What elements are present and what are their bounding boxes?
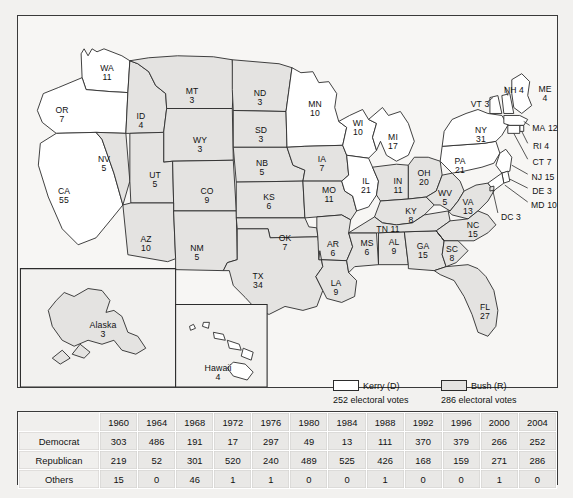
state-label-DC: DC 3 xyxy=(501,213,521,222)
table-row-democrat: Democrat 303 486 191 17 297 49 13 111 37… xyxy=(19,432,557,451)
state-label-IA: IA7 xyxy=(318,155,326,173)
legend-item-bush: Bush (R) 286 electoral votes xyxy=(441,376,517,405)
table-col-header: 1988 xyxy=(366,413,404,432)
state-label-CO: CO9 xyxy=(200,187,213,205)
table-col-header: 1984 xyxy=(328,413,366,432)
legend-label-bush: Bush (R) xyxy=(471,381,507,391)
state-label-TN: TN 11 xyxy=(376,225,399,234)
state-label-OR: OR7 xyxy=(55,106,68,124)
table-cell: 240 xyxy=(252,451,290,470)
table-cell: 46 xyxy=(176,470,214,489)
row-label-republican: Republican xyxy=(19,451,100,470)
table-cell: 525 xyxy=(328,451,366,470)
table-cell: 266 xyxy=(480,432,518,451)
state-label-OH: OH20 xyxy=(417,169,430,187)
table-cell: 0 xyxy=(138,470,176,489)
state-shape-TX xyxy=(223,229,322,315)
legend-votes-kerry: 252 electoral votes xyxy=(333,395,409,405)
state-label-MI: MI17 xyxy=(388,133,398,151)
table-cell: 370 xyxy=(404,432,442,451)
table-cell: 252 xyxy=(518,432,556,451)
state-label-NY: NY31 xyxy=(475,126,487,144)
table-col-header: 2004 xyxy=(518,413,556,432)
state-label-LA: LA9 xyxy=(331,279,342,297)
table-col-header: 1964 xyxy=(138,413,176,432)
state-label-GA: GA15 xyxy=(417,242,430,260)
table-cell: 301 xyxy=(176,451,214,470)
state-label-CT: CT 7 xyxy=(532,158,551,167)
state-label-IN: IN11 xyxy=(393,177,402,195)
table-cell: 486 xyxy=(138,432,176,451)
table-header-row: 1960 1964 1968 1972 1976 1980 1984 1988 … xyxy=(19,413,557,432)
table-col-header: 2000 xyxy=(480,413,518,432)
table-corner-cell xyxy=(19,413,100,432)
table-cell: 426 xyxy=(366,451,404,470)
table-col-header: 1972 xyxy=(214,413,252,432)
leader-line-DE xyxy=(510,179,528,188)
row-label-democrat: Democrat xyxy=(19,432,100,451)
table-col-header: 1976 xyxy=(252,413,290,432)
state-label-VT: VT 3 xyxy=(471,100,490,109)
state-label-ME: ME4 xyxy=(538,85,551,103)
table-row-others: Others 15 0 46 1 1 0 0 1 0 0 1 0 xyxy=(19,470,557,489)
table-col-header: 1980 xyxy=(290,413,328,432)
table-cell: 191 xyxy=(176,432,214,451)
state-shape-DC xyxy=(490,186,494,191)
table-row-republican: Republican 219 52 301 520 240 489 525 42… xyxy=(19,451,557,470)
state-shape-IN xyxy=(373,164,409,201)
table-cell: 1 xyxy=(252,470,290,489)
table-cell: 15 xyxy=(100,470,138,489)
state-shape-MA xyxy=(504,115,528,125)
leader-line-DC xyxy=(493,191,498,213)
table-col-header: 1992 xyxy=(404,413,442,432)
row-label-others: Others xyxy=(19,470,100,489)
table-cell: 489 xyxy=(290,451,328,470)
state-label-KS: KS6 xyxy=(263,193,275,211)
table-cell: 13 xyxy=(328,432,366,451)
table-cell: 297 xyxy=(252,432,290,451)
state-label-ND: ND3 xyxy=(254,89,267,107)
table-cell: 1 xyxy=(480,470,518,489)
table-cell: 271 xyxy=(480,451,518,470)
table-cell: 168 xyxy=(404,451,442,470)
electoral-map-frame: WA11 OR7 CA55 NV5 ID4 MT3 WY3 UT5 CO9 AZ… xyxy=(17,15,558,388)
table-cell: 286 xyxy=(518,451,556,470)
leader-line-NJ xyxy=(512,165,528,174)
state-label-KY: KY8 xyxy=(405,207,417,225)
table-cell: 219 xyxy=(100,451,138,470)
state-label-WA: WA11 xyxy=(100,64,114,82)
state-label-NV: NV5 xyxy=(98,155,110,173)
state-label-RI: RI 4 xyxy=(533,142,549,151)
state-label-alaska: Alaska3 xyxy=(89,321,116,339)
table-cell: 49 xyxy=(290,432,328,451)
state-shape-NM xyxy=(174,211,238,271)
table-col-header: 1996 xyxy=(442,413,480,432)
table-col-header: 1960 xyxy=(100,413,138,432)
table-cell: 520 xyxy=(214,451,252,470)
electoral-votes-table-wrap: 1960 1964 1968 1972 1976 1980 1984 1988 … xyxy=(17,411,558,485)
state-label-IL: IL21 xyxy=(361,177,371,195)
legend-swatch-kerry xyxy=(333,380,359,391)
table-cell: 0 xyxy=(290,470,328,489)
legend-swatch-bush xyxy=(441,380,467,391)
state-label-MN: MN10 xyxy=(308,100,322,118)
state-label-WI: WI10 xyxy=(353,119,364,137)
table-cell: 0 xyxy=(404,470,442,489)
table-cell: 17 xyxy=(214,432,252,451)
table-cell: 1 xyxy=(214,470,252,489)
legend-label-kerry: Kerry (D) xyxy=(363,381,400,391)
leader-line-CT xyxy=(514,133,528,159)
state-label-NH: NH 4 xyxy=(504,86,524,95)
state-label-MA: MA 12 xyxy=(532,124,557,133)
table-cell: 379 xyxy=(442,432,480,451)
state-label-AZ: AZ10 xyxy=(140,235,151,253)
state-label-CA: CA55 xyxy=(58,187,70,205)
state-shape-FL xyxy=(434,265,498,337)
state-label-NM: NM5 xyxy=(190,244,204,262)
state-label-WY: WY3 xyxy=(193,136,207,154)
table-cell: 303 xyxy=(100,432,138,451)
state-shape-RI xyxy=(520,125,524,131)
state-label-hawaii: Hawaii4 xyxy=(205,364,232,382)
table-cell: 111 xyxy=(366,432,404,451)
leader-line-RI xyxy=(522,131,528,143)
